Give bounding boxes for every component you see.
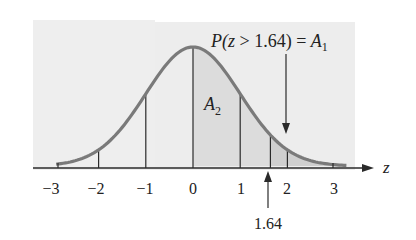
tick-label: −1 bbox=[136, 180, 153, 197]
tick-label: 0 bbox=[189, 180, 197, 197]
background-panel bbox=[33, 20, 155, 170]
z-axis-arrowhead-icon bbox=[362, 164, 374, 172]
axis-label-z: z bbox=[382, 158, 390, 177]
normal-distribution-diagram: z −3 −2 −1 0 1 2 3 1.64 P(z > 1.64) = A1… bbox=[0, 0, 416, 240]
tick-label: −3 bbox=[42, 180, 59, 197]
probability-annotation: P(z > 1.64) = A1 bbox=[210, 31, 328, 54]
tick-label: 1 bbox=[237, 180, 245, 197]
marker-label-1-64: 1.64 bbox=[254, 215, 282, 232]
tick-label: −2 bbox=[87, 180, 104, 197]
tick-label: 3 bbox=[330, 180, 338, 197]
up-arrow-icon bbox=[264, 171, 272, 182]
tick-label: 2 bbox=[283, 180, 291, 197]
